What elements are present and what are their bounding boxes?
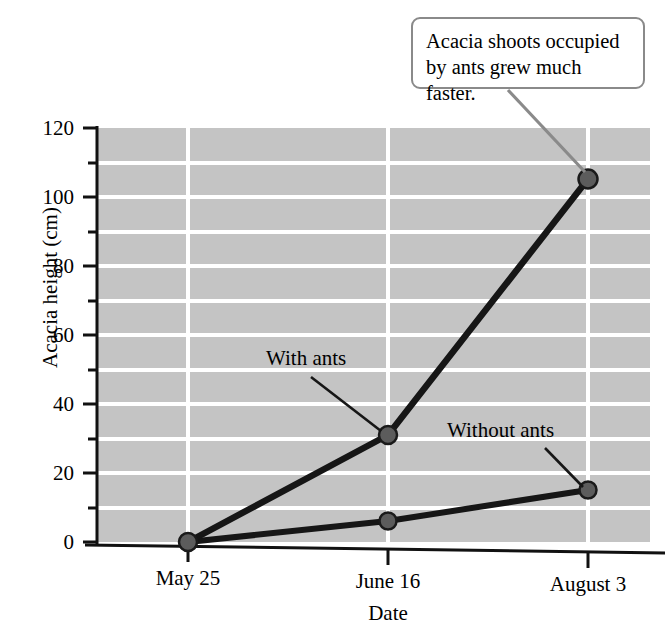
x-axis-title: Date <box>318 601 458 625</box>
x-tick-label-august-3: August 3 <box>518 572 658 596</box>
callout-text: Acacia shoots occupied by ants grew much… <box>426 28 632 107</box>
y-axis-title: Acacia height (cm) <box>38 207 62 368</box>
data-point <box>580 482 597 499</box>
x-axis <box>85 545 665 568</box>
data-point <box>179 533 197 551</box>
series-label-with-ants: With ants <box>266 346 346 370</box>
y-tick-label-20: 20 <box>10 461 74 485</box>
x-tick-label-june-16: June 16 <box>318 569 458 593</box>
y-tick-label-120: 120 <box>10 116 74 140</box>
data-point <box>380 513 397 530</box>
x-tick-label-may-25: May 25 <box>118 566 258 590</box>
series-label-without-ants: Without ants <box>447 418 554 442</box>
data-point <box>379 426 397 444</box>
y-axis-title-wrapper: Acacia height (cm) <box>38 158 63 418</box>
y-axis <box>83 126 97 544</box>
chart-figure: 120 100 80 60 40 20 0 Acacia height (cm)… <box>0 0 670 633</box>
y-tick-label-0: 0 <box>10 530 74 554</box>
callout-box: Acacia shoots occupied by ants grew much… <box>411 17 645 89</box>
data-point <box>579 170 598 189</box>
